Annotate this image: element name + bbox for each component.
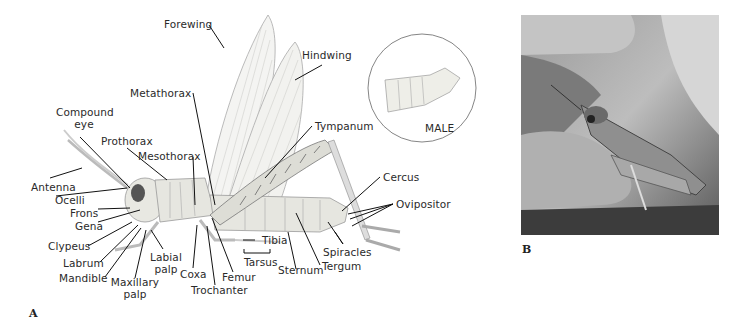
label-ocelli: Ocelli <box>55 194 85 206</box>
label-compound-eye: Compound eye <box>56 106 112 130</box>
label-maxillary-palp: Maxillary palp <box>110 276 160 300</box>
label-prothorax: Prothorax <box>101 135 153 147</box>
label-mandible: Mandible <box>59 272 108 284</box>
label-clypeus: Clypeus <box>48 240 90 252</box>
grasshopper-photo <box>521 15 719 235</box>
label-labrum: Labrum <box>63 257 104 269</box>
label-tibia: Tibia <box>262 234 288 246</box>
label-male-inset: MALE <box>425 122 454 134</box>
panel-label-a: A <box>29 307 38 320</box>
label-forewing: Forewing <box>164 18 212 30</box>
label-hindwing: Hindwing <box>302 49 352 61</box>
label-mesothorax: Mesothorax <box>138 150 201 162</box>
label-frons: Frons <box>70 207 98 219</box>
label-cercus: Cercus <box>383 171 419 183</box>
label-tympanum: Tympanum <box>315 120 374 132</box>
label-sternum: Sternum <box>278 264 324 276</box>
label-femur: Femur <box>222 271 256 283</box>
label-tergum: Tergum <box>322 260 361 272</box>
label-spiracles: Spiracles <box>323 246 372 258</box>
label-antenna: Antenna <box>31 181 76 193</box>
label-tarsus: Tarsus <box>244 256 278 268</box>
label-ovipositor: Ovipositor <box>396 198 451 210</box>
label-gena: Gena <box>75 220 103 232</box>
label-coxa: Coxa <box>180 268 206 280</box>
label-metathorax: Metathorax <box>130 87 191 99</box>
label-trochanter: Trochanter <box>191 284 248 296</box>
panel-label-b: B <box>522 243 531 256</box>
